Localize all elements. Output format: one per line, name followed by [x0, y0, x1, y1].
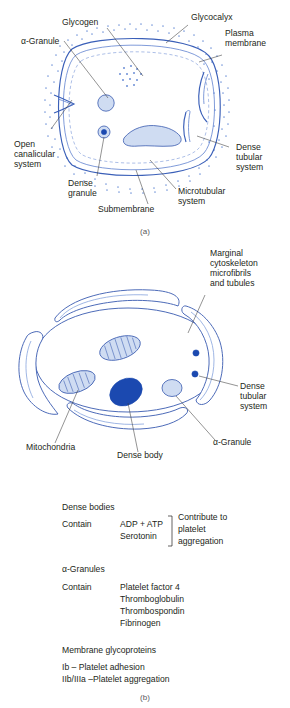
- cytoplasm-organelle-shape: [123, 126, 181, 147]
- legend-alpha-granules-contain: Contain: [62, 582, 92, 592]
- legend-dense-bodies-contain: Contain: [62, 519, 92, 529]
- legend-dense-bodies-item-1: Serotonin: [120, 531, 157, 541]
- dense-tubular-system-tube: [184, 111, 190, 143]
- label-mitochondria: Mitochondria: [26, 442, 75, 452]
- legend-alpha-granules-title: α-Granules: [62, 564, 105, 574]
- legend-dense-bodies-item-0: ADP + ATP: [120, 519, 163, 529]
- legend-effect-line-0: Contribute to: [178, 512, 227, 522]
- dense-tubular-dot-upper: [193, 350, 199, 356]
- legend-text-block: Dense bodies Contain ADP + ATP Serotonin…: [0, 498, 290, 708]
- label-alpha-granule: α-Granule: [21, 36, 60, 46]
- legend-alpha-granules-item-3: Fibrinogen: [120, 618, 161, 628]
- glycogen-particles: [119, 65, 142, 87]
- open-canalicular-system-shape-right: [199, 72, 208, 122]
- legend-alpha-granules-item-1: Thromboglobulin: [120, 594, 184, 604]
- label-marginal-line2: cytoskeleton: [210, 258, 258, 268]
- label-dense-granule-line1: Dense: [68, 178, 93, 188]
- figure-a-platelet-cross-section: Glycogen Glycocalyx Plasma membrane α-Gr…: [0, 0, 290, 240]
- submembrane-dashed-ring: [69, 52, 209, 163]
- figure-a-caption: (a): [140, 227, 150, 236]
- legend-effect-line-1: platelet: [178, 524, 206, 534]
- figure-b-platelet-discoid-view: Marginal cytoskeleton microfibrils and t…: [0, 240, 290, 540]
- label-open-canalicular-line2: canalicular: [14, 149, 55, 159]
- label-glycocalyx: Glycocalyx: [191, 12, 233, 22]
- label-glycogen: Glycogen: [62, 17, 99, 27]
- label-plasma-membrane-line2: membrane: [225, 38, 266, 48]
- label-marginal-line1: Marginal: [210, 248, 243, 258]
- alpha-granule-shape-b: [162, 380, 182, 397]
- label-dense-tubular-b-line2: tubular: [240, 391, 266, 401]
- label-dense-tubular-b-line3: system: [240, 401, 267, 411]
- alpha-granule-shape: [98, 95, 114, 111]
- label-microtubular-line2: system: [178, 196, 205, 206]
- plasma-membrane-inner: [63, 45, 214, 170]
- label-dense-body: Dense body: [117, 450, 164, 460]
- label-open-canalicular-line1: Open: [14, 139, 35, 149]
- legend-alpha-granules-item-2: Thrombospondin: [120, 606, 185, 616]
- legend-membrane-glycoproteins-item-1: IIb/IIIa –Platelet aggregation: [62, 674, 170, 684]
- label-plasma-membrane-line1: Plasma: [225, 28, 254, 38]
- legend-membrane-glycoproteins-item-0: Ib – Platelet adhesion: [62, 662, 145, 672]
- dense-granule-shape: [98, 126, 110, 138]
- label-open-canalicular-line3: system: [14, 159, 41, 169]
- legend-membrane-glycoproteins-title: Membrane glycoproteins: [62, 645, 156, 655]
- label-microtubular-line1: Microtubular: [178, 186, 225, 196]
- open-canalicular-system-shape: [54, 95, 74, 113]
- label-marginal-line3: microfibrils: [210, 268, 251, 278]
- label-dense-tubular-line1: Dense: [236, 142, 261, 152]
- figure-b-caption: (b): [140, 693, 150, 702]
- label-dense-tubular-b-line1: Dense: [240, 381, 265, 391]
- legend-alpha-granules-item-0: Platelet factor 4: [120, 582, 180, 592]
- label-submembrane: Submembrane: [98, 204, 155, 214]
- legend-bracket: [168, 516, 172, 546]
- legend-effect-line-2: aggregation: [178, 536, 224, 546]
- label-marginal-line4: and tubules: [210, 278, 254, 288]
- label-alpha-granule-b: α-Granule: [213, 437, 252, 447]
- legend-dense-bodies-title: Dense bodies: [62, 502, 115, 512]
- label-dense-tubular-line2: tubular: [236, 152, 262, 162]
- label-dense-tubular-line3: system: [236, 162, 263, 172]
- label-dense-granule-line2: granule: [68, 188, 97, 198]
- dense-tubular-dot-lower: [192, 371, 198, 377]
